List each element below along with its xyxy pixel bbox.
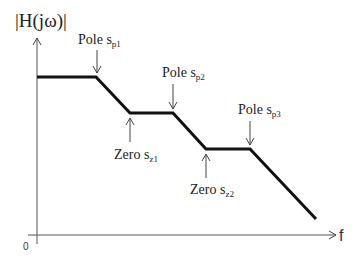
svg-text:Zero sz1: Zero sz1	[114, 147, 158, 164]
svg-text:Pole sp3: Pole sp3	[238, 102, 281, 119]
x-axis: f 0	[23, 227, 344, 252]
zero1-subscript: z1	[149, 154, 158, 164]
zero2-label: Zero s	[190, 182, 225, 197]
svg-text:Pole sp2: Pole sp2	[162, 65, 205, 82]
annotation-pole3: Pole sp3	[238, 102, 281, 145]
pole3-label: Pole s	[238, 102, 272, 117]
pole1-subscript: p1	[112, 39, 121, 49]
zero2-subscript: z2	[225, 189, 234, 199]
annotation-pole1: Pole sp1	[78, 32, 121, 73]
svg-text:Pole sp1: Pole sp1	[78, 32, 121, 49]
pole3-subscript: p3	[272, 109, 282, 119]
y-axis: |H(jω)|	[15, 10, 67, 244]
pole2-subscript: p2	[196, 72, 205, 82]
y-axis-label: |H(jω)|	[15, 10, 67, 32]
annotation-zero1: Zero sz1	[114, 118, 158, 164]
annotation-zero2: Zero sz2	[190, 154, 234, 199]
pole2-label: Pole s	[162, 65, 196, 80]
magnitude-response-curve	[37, 77, 316, 219]
annotation-pole2: Pole sp2	[162, 65, 205, 109]
svg-text:Zero sz2: Zero sz2	[190, 182, 234, 199]
bode-diagram: |H(jω)| f 0 Pole sp1 Zero sz1 Pole sp2 Z…	[0, 0, 358, 264]
x-axis-label: f	[339, 227, 344, 244]
zero1-label: Zero s	[114, 147, 149, 162]
pole1-label: Pole s	[78, 32, 112, 47]
origin-label: 0	[23, 241, 29, 252]
